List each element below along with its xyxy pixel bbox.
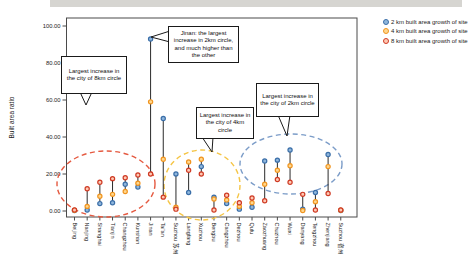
data-point-marker — [161, 116, 165, 120]
legend-item-8km: 8 km built area growth of site — [383, 36, 462, 46]
legend-item-4km: 4 km built area growth of site — [383, 27, 462, 37]
data-point-marker — [187, 190, 191, 194]
data-point-marker — [313, 190, 317, 194]
data-point-marker — [72, 208, 76, 212]
annotation-callout-4km: Largest increase in the city of 4km circ… — [196, 107, 254, 139]
data-point-marker — [98, 180, 102, 184]
annotation-callout-2km: Largest increase in the city of 2km circ… — [256, 83, 319, 117]
series-8km-marker-icon — [383, 38, 389, 44]
data-point-marker — [288, 164, 292, 168]
data-point-marker — [161, 157, 165, 161]
y-tick-label: 60.00 — [46, 97, 61, 103]
x-tick-label: Tai'an — [160, 223, 166, 237]
x-tick-label: Danyang — [300, 223, 306, 245]
y-tick-label: 40.00 — [46, 134, 61, 140]
data-point-marker — [136, 173, 140, 177]
x-tick-label: Kunshan — [135, 223, 141, 245]
y-tick-label: 0.00 — [49, 208, 60, 214]
data-point-marker — [85, 187, 89, 191]
y-tick-label: 80.00 — [46, 60, 61, 66]
series-4km-marker-icon — [383, 28, 389, 34]
x-tick-label: Qufu — [249, 223, 255, 235]
data-point-marker — [85, 204, 89, 208]
x-tick-label: Tengzhou — [312, 223, 318, 247]
data-point-marker — [275, 177, 279, 181]
x-tick-label: Nanjing — [84, 223, 90, 242]
data-point-marker — [250, 205, 254, 209]
x-tick-label: Beijing — [72, 223, 78, 240]
data-point-marker — [313, 208, 317, 212]
annotation-callout-jinan: Jinan: the largest increase in 2km circl… — [168, 26, 239, 63]
data-point-marker — [250, 201, 254, 205]
data-point-marker — [263, 199, 267, 203]
data-point-marker — [339, 208, 343, 212]
data-point-marker — [199, 172, 203, 176]
data-point-marker — [263, 182, 267, 186]
legend-label: 2 km built area growth of site — [391, 19, 468, 25]
legend-label: 8 km built area growth of site — [391, 38, 468, 44]
x-tick-label: Changzhou — [122, 223, 128, 251]
data-point-marker — [225, 198, 229, 202]
data-point-marker — [326, 165, 330, 169]
data-point-marker — [199, 165, 203, 169]
data-point-marker — [148, 172, 152, 176]
data-point-marker — [98, 202, 102, 206]
data-point-marker — [187, 168, 191, 172]
data-point-marker — [110, 201, 114, 205]
x-tick-label: Dezhou — [236, 223, 242, 242]
data-point-marker — [237, 201, 241, 205]
x-tick-label: Cangzhou — [224, 223, 230, 248]
data-point-marker — [98, 194, 102, 198]
data-point-marker — [148, 100, 152, 104]
data-point-marker — [110, 192, 114, 196]
x-tick-label: Wuxi — [287, 223, 293, 235]
data-point-marker — [136, 181, 140, 185]
data-point-marker — [326, 191, 330, 195]
data-point-marker — [275, 168, 279, 172]
data-point-marker — [250, 196, 254, 200]
y-axis-title: Built area ratio — [8, 83, 15, 153]
annotation-callout-8km: Largest increase in the city of 8km circ… — [61, 56, 127, 94]
x-tick-label: Chuzhou — [274, 223, 280, 245]
data-point-marker — [174, 172, 178, 176]
data-point-marker — [187, 160, 191, 164]
data-point-marker — [212, 208, 216, 212]
x-tick-label: Xuzhou — [198, 223, 204, 242]
data-point-marker — [225, 193, 229, 197]
data-point-marker — [199, 157, 203, 161]
x-tick-label: Zaozhuang — [262, 223, 268, 251]
x-tick-label: Langfang — [186, 223, 192, 246]
data-point-marker — [288, 148, 292, 152]
data-point-marker — [110, 177, 114, 181]
legend: 2 km built area growth of site 4 km buil… — [383, 17, 462, 46]
data-point-marker — [288, 180, 292, 184]
data-point-marker — [123, 176, 127, 180]
x-tick-label: Shanghai — [97, 223, 103, 246]
data-point-marker — [174, 207, 178, 211]
data-point-marker — [161, 195, 165, 199]
legend-item-2km: 2 km built area growth of site — [383, 17, 462, 27]
data-point-marker — [212, 197, 216, 201]
data-point-marker — [326, 152, 330, 156]
series-2km-marker-icon — [383, 19, 389, 25]
data-point-marker — [123, 189, 127, 193]
x-tick-label: Bengbu — [211, 223, 217, 242]
x-tick-label: Zhenjiang — [325, 223, 331, 247]
x-tick-label: Suzhou 苏州 — [172, 223, 180, 255]
data-point-marker — [301, 208, 305, 212]
x-tick-label: Suzhou 宿州 — [337, 223, 345, 255]
data-point-marker — [263, 159, 267, 163]
legend-label: 4 km built area growth of site — [391, 28, 468, 34]
data-point-marker — [313, 200, 317, 204]
data-point-marker — [123, 182, 127, 186]
x-tick-label: Jinan — [148, 223, 154, 236]
data-point-marker — [301, 192, 305, 196]
x-tick-label: Tianjin — [110, 223, 116, 239]
y-tick-label: 100.00 — [43, 23, 61, 29]
data-point-marker — [275, 158, 279, 162]
